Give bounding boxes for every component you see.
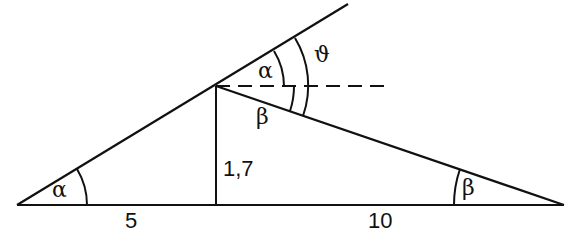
alpha-arc-bottom — [77, 169, 87, 205]
beta-label-right: β — [462, 175, 475, 200]
theta-arc — [295, 38, 308, 116]
alpha-label-bottom: α — [52, 177, 67, 202]
base-right-label: 10 — [368, 208, 392, 233]
beta-arc-right — [454, 169, 460, 205]
height-label: 1,7 — [223, 156, 254, 181]
theta-label: ϑ — [314, 42, 330, 67]
beta-arc-apex — [290, 86, 294, 111]
base-left-label: 5 — [125, 208, 137, 233]
alpha-label-top: α — [258, 58, 273, 83]
left-slope-line — [17, 4, 348, 205]
alpha-arc-top — [274, 51, 284, 86]
beta-label-apex: β — [256, 104, 269, 129]
geometry-diagram: α α ϑ β β 1,7 5 10 — [0, 0, 566, 233]
